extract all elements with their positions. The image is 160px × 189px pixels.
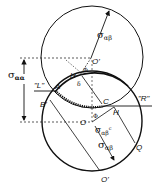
label-L: "L"	[34, 81, 45, 90]
label-Q: Q	[136, 143, 142, 152]
label-C: C	[103, 97, 109, 106]
mohr-diagram: σαβ σαα "L" "R" A B' C H H O' O O' Q δ Φ…	[0, 0, 160, 189]
sigma-abc-label: σαβc	[95, 125, 112, 137]
b-prime-line	[50, 100, 100, 171]
sigma-ab-bottom-label: σαβ	[98, 139, 113, 152]
label-A: A	[54, 82, 60, 91]
label-B-prime: B'	[40, 100, 47, 109]
sigma-ab-top-label: σαβ	[97, 29, 112, 42]
label-H-lower: H	[113, 108, 119, 117]
label-O-prime-upper: O'	[92, 57, 100, 66]
label-O: O	[80, 118, 86, 127]
label-phi-lower: Φ	[93, 112, 98, 119]
sigma-aa-label: σαα	[8, 69, 25, 82]
label-R: "R"	[138, 94, 151, 103]
label-O-prime-lower: O'	[101, 175, 109, 184]
label-delta: δ	[77, 80, 81, 87]
label-H-upper: H	[70, 71, 76, 80]
label-phi-upper: Φ	[83, 66, 88, 73]
